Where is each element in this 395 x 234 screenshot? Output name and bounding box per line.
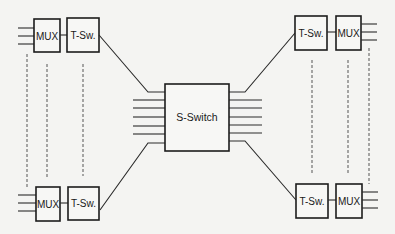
link-to-s-switch: [99, 35, 165, 92]
group-top-left: MUX T-Sw.: [18, 18, 165, 92]
link-to-s-switch: [100, 143, 165, 210]
tsw-label: T-Sw.: [70, 30, 95, 41]
tsw-label: T-Sw.: [299, 196, 324, 207]
group-bottom-right: T-Sw. MUX: [229, 141, 378, 218]
mux-label: MUX: [337, 28, 360, 39]
group-bottom-left: MUX T-Sw.: [18, 143, 165, 221]
group-top-right: T-Sw. MUX: [229, 16, 377, 92]
diagram-canvas: MUX T-Sw. MUX T-Sw. T-Sw. MUX T-Sw. M: [0, 0, 395, 234]
tsw-label: T-Sw.: [298, 28, 323, 39]
right-dashed-columns: [312, 48, 369, 184]
left-dashed-columns: [27, 54, 83, 188]
switching-network-diagram: MUX T-Sw. MUX T-Sw. T-Sw. MUX T-Sw. M: [0, 0, 395, 234]
s-switch-label: S-Switch: [176, 111, 218, 123]
mux-label: MUX: [36, 31, 59, 42]
link-to-s-switch: [229, 33, 295, 92]
link-to-s-switch: [229, 141, 296, 200]
mux-label: MUX: [37, 199, 60, 210]
mux-label: MUX: [338, 196, 361, 207]
tsw-label: T-Sw.: [71, 198, 96, 209]
